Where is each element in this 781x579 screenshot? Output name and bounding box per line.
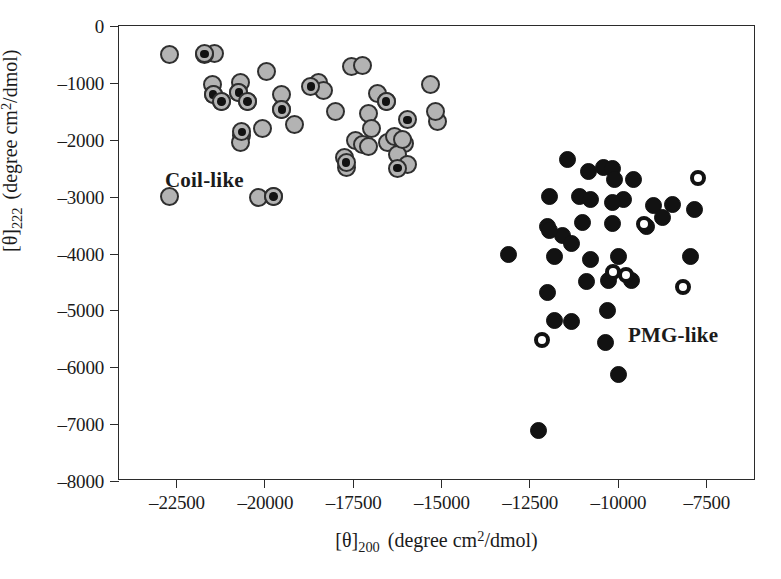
y-tick-label: –7000 — [57, 414, 104, 436]
x-tick-7500: –7500 — [706, 479, 707, 488]
y-tick-6000: –6000 — [110, 367, 119, 368]
x-tick-label: –12500 — [502, 492, 558, 514]
y-axis-title: [θ]222(degree cm2/dmol) — [0, 50, 26, 252]
data-point-pmg-open — [690, 170, 706, 186]
data-point-pmg-black — [599, 302, 616, 319]
figure-scatter-plot: [θ]222(degree cm2/dmol) 0 –1000 –2000 –3… — [0, 0, 781, 579]
data-point-pmg-open — [534, 332, 550, 348]
x-tick-label: –7500 — [684, 492, 731, 514]
data-point-coil-grey — [359, 137, 378, 156]
data-point-pmg-open — [618, 267, 634, 283]
data-point-coil-grey — [285, 115, 304, 134]
data-point-coil-grey — [257, 62, 276, 81]
data-point-pmg-black — [530, 422, 547, 439]
data-point-coil-grey-dot — [398, 110, 417, 129]
y-tick-label: –5000 — [57, 300, 104, 322]
data-point-pmg-black — [546, 312, 563, 329]
y-tick-0: 0 — [110, 26, 119, 27]
y-tick-2000: –2000 — [110, 140, 119, 141]
data-point-coil-grey — [326, 102, 345, 121]
y-tick-3000: –3000 — [110, 197, 119, 198]
data-point-pmg-black — [578, 273, 595, 290]
data-point-pmg-black — [559, 151, 576, 168]
y-tick-label: –2000 — [57, 129, 104, 151]
data-point-coil-grey — [393, 130, 412, 149]
data-point-pmg-black — [610, 248, 627, 265]
data-point-pmg-black — [563, 313, 580, 330]
x-tick-label: –15000 — [414, 492, 470, 514]
x-tick-label: –20000 — [237, 492, 293, 514]
y-tick-4000: –4000 — [110, 254, 119, 255]
data-point-coil-grey — [253, 119, 272, 138]
data-point-pmg-black — [563, 235, 580, 252]
data-point-pmg-black — [604, 215, 621, 232]
data-point-pmg-black — [500, 246, 517, 263]
data-point-pmg-black — [541, 222, 558, 239]
data-point-pmg-black — [546, 248, 563, 265]
x-tick-22500: –22500 — [176, 479, 177, 488]
y-tick-label: –8000 — [57, 471, 104, 493]
x-tick-10000: –10000 — [618, 479, 619, 488]
x-tick-12500: –12500 — [529, 479, 530, 488]
data-point-coil-grey-dot — [337, 153, 356, 172]
data-markers-layer — [119, 26, 754, 479]
y-tick-8000: –8000 — [110, 481, 119, 482]
data-point-pmg-black — [597, 334, 614, 351]
x-tick-20000: –20000 — [264, 479, 265, 488]
data-point-coil-grey-dot — [238, 92, 257, 111]
data-point-coil-grey — [353, 56, 372, 75]
data-point-coil-grey-dot — [388, 159, 407, 178]
data-point-coil-grey-dot — [264, 187, 283, 206]
data-point-pmg-black — [574, 214, 591, 231]
data-point-pmg-black — [539, 284, 556, 301]
y-tick-label: –1000 — [57, 72, 104, 94]
data-point-pmg-open — [675, 279, 691, 295]
x-tick-15000: –15000 — [441, 479, 442, 488]
data-point-coil-grey — [421, 75, 440, 94]
data-point-pmg-black — [541, 188, 558, 205]
y-tick-1000: –1000 — [110, 83, 119, 84]
data-point-coil-grey — [160, 187, 179, 206]
data-point-coil-grey-dot — [301, 77, 320, 96]
y-tick-label: –6000 — [57, 357, 104, 379]
x-tick-label: –10000 — [591, 492, 647, 514]
data-point-pmg-black — [682, 248, 699, 265]
x-axis-title: [θ]200(degree cm2/dmol) — [118, 528, 755, 556]
data-point-coil-grey — [160, 45, 179, 64]
plot-area: 0 –1000 –2000 –3000 –4000 –5000 –6000 –7… — [118, 25, 755, 480]
data-point-pmg-black — [654, 209, 671, 226]
data-point-coil-grey-dot — [377, 92, 396, 111]
x-tick-17500: –17500 — [353, 479, 354, 488]
data-point-pmg-open — [636, 216, 652, 232]
y-tick-label: 0 — [95, 16, 104, 38]
data-point-pmg-black — [686, 201, 703, 218]
y-tick-label: –4000 — [57, 243, 104, 265]
x-tick-label: –17500 — [326, 492, 382, 514]
data-point-pmg-black — [582, 251, 599, 268]
x-tick-label: –22500 — [149, 492, 205, 514]
data-point-pmg-black — [606, 171, 623, 188]
data-point-pmg-black — [625, 171, 642, 188]
y-tick-7000: –7000 — [110, 424, 119, 425]
data-point-pmg-black — [610, 366, 627, 383]
data-point-coil-grey-dot — [212, 92, 231, 111]
data-point-pmg-black — [604, 194, 621, 211]
y-tick-5000: –5000 — [110, 310, 119, 311]
data-point-pmg-black — [582, 191, 599, 208]
y-tick-label: –3000 — [57, 186, 104, 208]
